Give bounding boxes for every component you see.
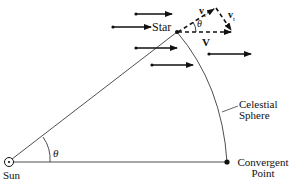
star-label: Star xyxy=(152,22,171,33)
v-radial-label: vr xyxy=(199,5,206,21)
convergent-point-dot xyxy=(224,159,229,164)
celestial-sphere-arc xyxy=(177,32,227,162)
theta-arc-star xyxy=(193,22,196,32)
theta-arc-sun xyxy=(43,137,50,162)
v-total-label: V xyxy=(202,37,210,48)
theta-sun-label: θ xyxy=(53,148,58,159)
celestial-leader xyxy=(222,106,238,112)
sun-label: Sun xyxy=(3,170,20,181)
convergent-point-label: Convergent Point xyxy=(232,157,294,179)
sun-star-line xyxy=(12,32,177,159)
celestial-sphere-label: Celestial Sphere xyxy=(239,99,278,121)
v-tangential-label: vt xyxy=(228,9,235,25)
